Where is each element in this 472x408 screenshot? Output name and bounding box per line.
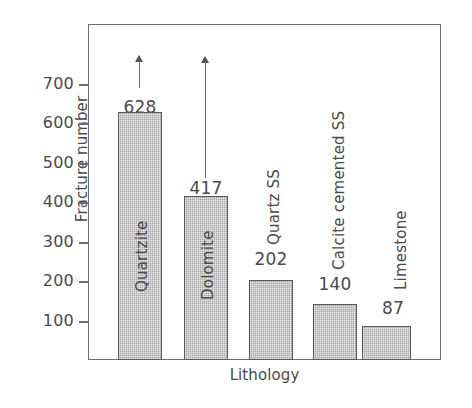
up-arrow-icon-quartzite (134, 55, 145, 88)
y-tick-label: 100 (43, 311, 74, 330)
y-tick-mark (79, 242, 88, 244)
y-axis-title: Fracture number (73, 69, 91, 249)
bar-limestone (362, 326, 411, 360)
bar-category-label-calcite-cemented-ss: Calcite cemented SS (330, 111, 348, 270)
y-tick-label: 400 (43, 192, 74, 211)
y-tick-label: 300 (43, 232, 74, 251)
y-tick-mark (79, 281, 88, 283)
bar-category-label-dolomite: Dolomite (199, 230, 217, 300)
y-tick-label: 500 (43, 153, 74, 172)
bar-value-label-quartz-ss: 202 (241, 249, 301, 269)
y-tick-mark (79, 163, 88, 165)
bar-quartz-ss (249, 280, 293, 360)
y-tick-label: 600 (43, 113, 74, 132)
arrow-shaft (139, 60, 140, 88)
chart-figure: Fracture number 700 600 500 400 300 200 … (0, 0, 472, 408)
y-tick-mark (79, 123, 88, 125)
x-axis-title: Lithology (88, 366, 441, 384)
bar-category-label-quartzite: Quartzite (133, 220, 151, 292)
y-tick-mark (79, 84, 88, 86)
y-tick-label: 200 (43, 271, 74, 290)
bar-value-label-limestone: 87 (368, 298, 418, 318)
y-tick-mark (79, 321, 88, 323)
bar-category-label-limestone: Limestone (392, 210, 410, 290)
up-arrow-icon-dolomite (200, 56, 211, 178)
bar-calcite-cemented-ss (313, 304, 357, 360)
y-tick-mark (79, 202, 88, 204)
bar-category-label-quartz-ss: Quartz SS (265, 169, 283, 245)
arrow-shaft (205, 61, 206, 178)
bar-value-label-calcite-cemented-ss: 140 (305, 274, 365, 294)
y-tick-label: 700 (43, 74, 74, 93)
bar-value-label-dolomite: 417 (176, 178, 236, 198)
